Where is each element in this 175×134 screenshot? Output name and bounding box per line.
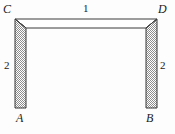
top-beam [15,19,157,28]
vertex-label-a: A [16,112,23,124]
dimension-label-top: 1 [83,3,89,14]
left-leg [15,19,26,108]
dimension-label-left: 2 [4,60,10,71]
vertex-label-c: C [3,3,11,15]
dimension-label-right: 2 [160,60,166,71]
vertex-label-b: B [146,112,153,124]
right-leg [146,19,157,108]
figure-canvas: C D A B 1 2 2 [0,0,175,134]
vertex-label-d: D [158,3,167,15]
